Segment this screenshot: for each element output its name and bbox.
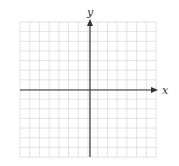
coordinate-plane: x y <box>0 0 179 166</box>
y-axis-label: y <box>86 6 94 19</box>
x-axis-label: x <box>162 84 169 97</box>
x-axis-arrow-icon <box>151 87 158 93</box>
